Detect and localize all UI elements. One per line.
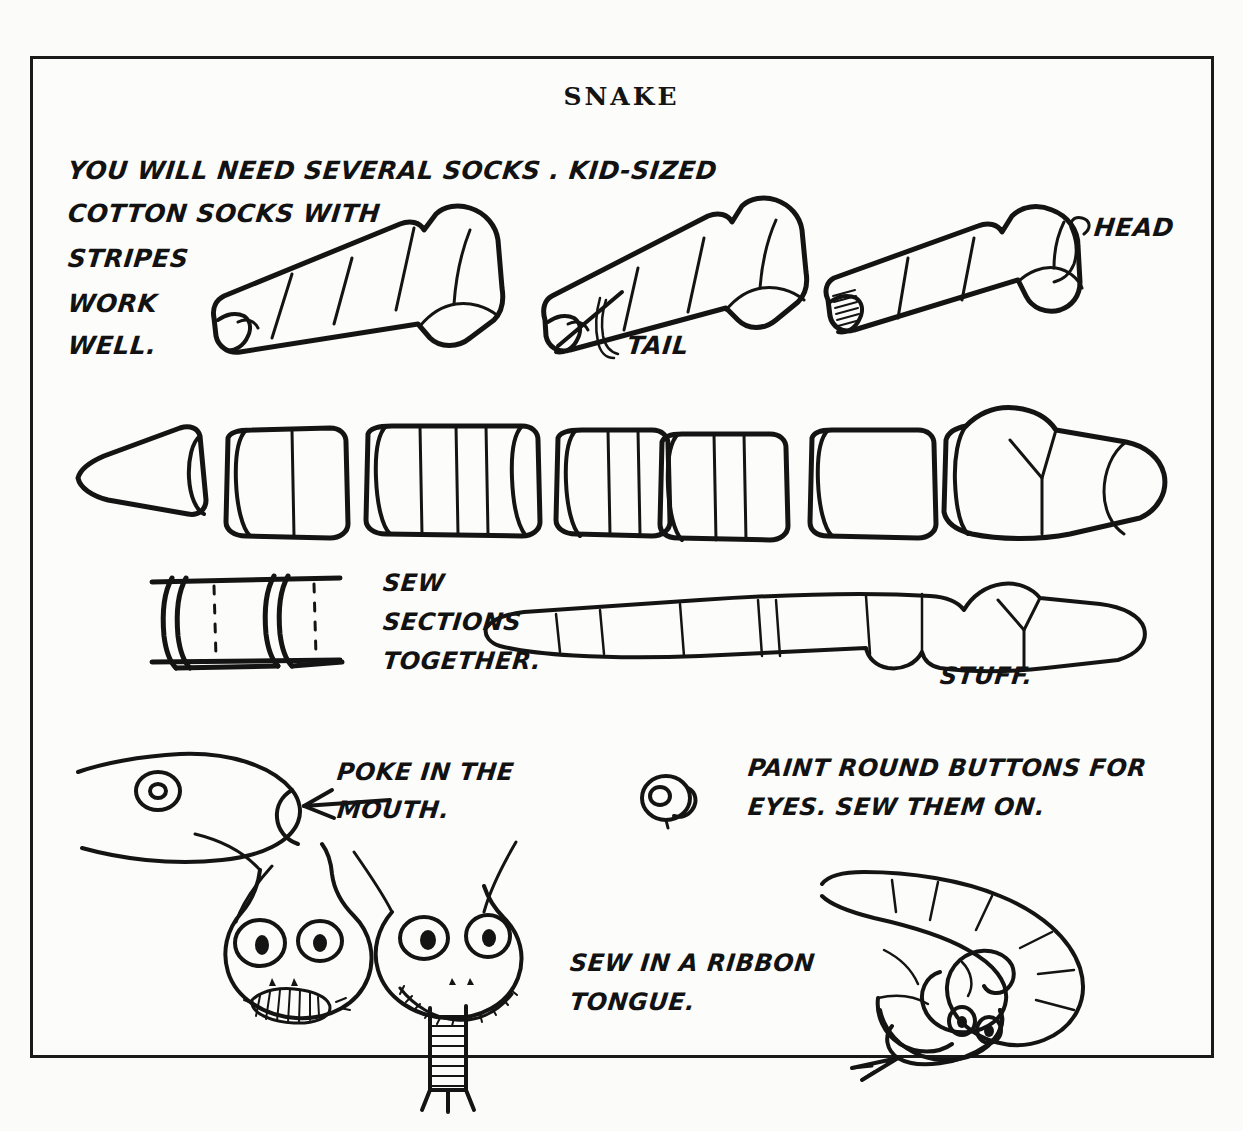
paint-buttons-line-1: PAINT ROUND BUTTONS FOR: [746, 753, 1148, 784]
paint-buttons-line-2: EYES. SEW THEM ON.: [746, 792, 1046, 823]
materials-note-line-4: WORK: [66, 288, 159, 320]
ribbon-tongue-line-2: TONGUE.: [568, 987, 696, 1018]
craft-instruction-page: SNAKE YOU WILL NEED SEVERAL SOCKS . KID-…: [0, 0, 1243, 1131]
page-title: SNAKE: [0, 82, 1243, 111]
head-label: HEAD: [1092, 212, 1175, 244]
sew-sections-line-3: TOGETHER.: [381, 646, 542, 677]
materials-note-line-3: STRIPES: [66, 243, 190, 275]
materials-note-line-2: COTTON SOCKS WITH: [66, 198, 382, 230]
poke-mouth-line-1: POKE IN THE: [335, 757, 515, 788]
poke-mouth-line-2: MOUTH.: [335, 795, 451, 826]
sew-sections-line-1: SEW: [381, 568, 446, 599]
sew-sections-line-2: SECTIONS: [381, 607, 523, 638]
materials-note-line-1: YOU WILL NEED SEVERAL SOCKS . KID-SIZED: [66, 155, 718, 187]
stuff-label: STUFF.: [938, 661, 1034, 692]
tail-label: TAIL: [625, 330, 690, 362]
materials-note-line-5: WELL.: [66, 330, 158, 362]
ribbon-tongue-line-1: SEW IN A RIBBON: [568, 948, 816, 979]
